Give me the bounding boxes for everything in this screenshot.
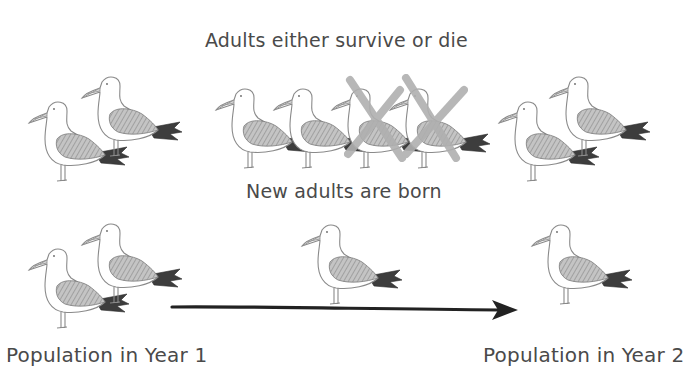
population-year2-label: Population in Year 2 xyxy=(483,343,684,367)
population-year1-label: Population in Year 1 xyxy=(6,343,207,367)
survival-caption: Adults either survive or die xyxy=(205,29,468,51)
seagull-icon xyxy=(530,220,634,306)
seagull-newborn-icon xyxy=(300,220,404,306)
seagull-icon xyxy=(548,72,652,158)
recruitment-caption: New adults are born xyxy=(246,180,442,202)
seagull-icon xyxy=(80,72,184,158)
arrow-right-icon xyxy=(170,297,522,321)
cross-out-icon xyxy=(340,74,480,164)
seagull-icon xyxy=(80,219,184,305)
